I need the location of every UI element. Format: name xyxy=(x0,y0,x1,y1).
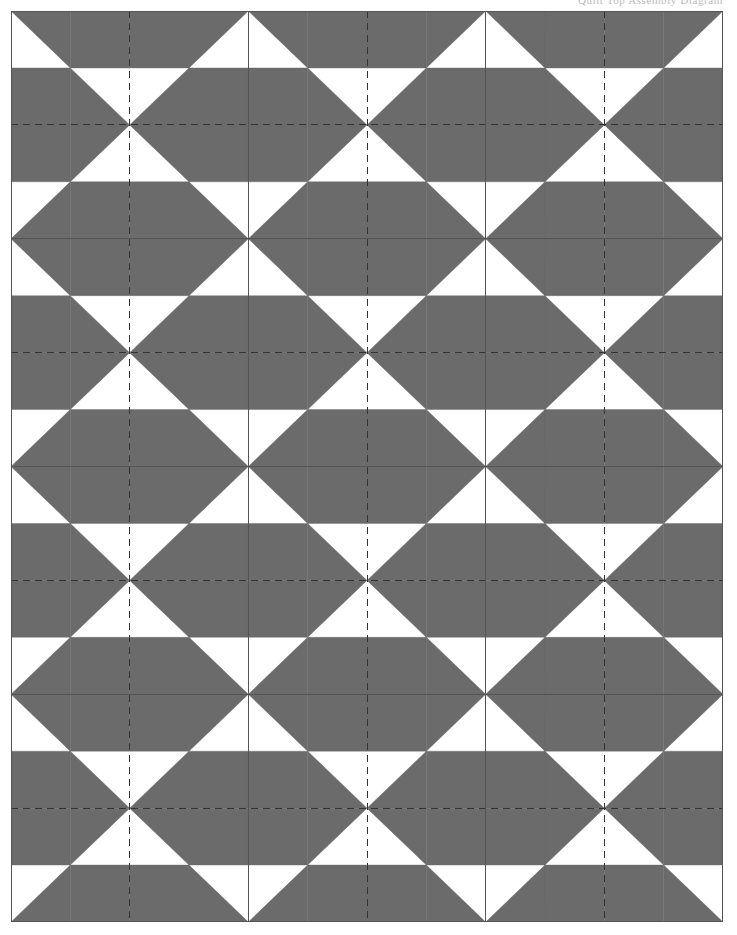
unit-1-3-2-4 xyxy=(664,68,723,125)
unit-4-1-4-3 xyxy=(130,865,189,922)
unit-2-1-4-2 xyxy=(70,410,129,467)
unit-3-3-1-3 xyxy=(604,467,663,524)
unit-2-3-3-4 xyxy=(664,353,723,410)
header-strip: Quilt Top Assembly Diagram xyxy=(0,0,737,9)
unit-4-1-4-2 xyxy=(70,865,129,922)
unit-4-3-3-1 xyxy=(486,808,545,865)
unit-3-1-3-1 xyxy=(11,580,70,637)
unit-1-1-4-3 xyxy=(130,182,189,239)
unit-2-1-4-3 xyxy=(130,410,189,467)
unit-1-2-4-2 xyxy=(308,182,367,239)
quilt-diagram xyxy=(11,11,723,922)
unit-2-2-4-2 xyxy=(308,410,367,467)
unit-1-1-1-2 xyxy=(70,11,129,68)
unit-3-3-4-3 xyxy=(604,637,663,694)
unit-2-1-3-1 xyxy=(11,353,70,410)
unit-2-1-2-4 xyxy=(189,296,248,353)
unit-2-1-1-2 xyxy=(70,239,129,296)
unit-2-3-4-3 xyxy=(604,410,663,467)
unit-2-2-3-4 xyxy=(426,353,485,410)
unit-1-1-1-3 xyxy=(130,11,189,68)
unit-2-3-1-3 xyxy=(604,239,663,296)
unit-4-1-1-2 xyxy=(70,694,129,751)
unit-1-3-1-2 xyxy=(545,11,604,68)
unit-4-1-1-3 xyxy=(130,694,189,751)
unit-4-2-2-1 xyxy=(248,751,307,808)
unit-1-3-3-1 xyxy=(486,125,545,182)
unit-4-3-2-4 xyxy=(664,751,723,808)
unit-2-2-1-3 xyxy=(367,239,426,296)
unit-4-2-4-3 xyxy=(367,865,426,922)
unit-4-2-4-2 xyxy=(308,865,367,922)
unit-4-1-3-4 xyxy=(189,808,248,865)
unit-4-3-4-2 xyxy=(545,865,604,922)
unit-3-2-4-2 xyxy=(308,637,367,694)
unit-1-3-1-3 xyxy=(604,11,663,68)
unit-2-3-4-2 xyxy=(545,410,604,467)
unit-4-1-2-1 xyxy=(11,751,70,808)
unit-3-2-1-3 xyxy=(367,467,426,524)
unit-1-1-3-4 xyxy=(189,125,248,182)
unit-3-3-2-4 xyxy=(664,523,723,580)
unit-1-2-2-4 xyxy=(426,68,485,125)
unit-3-3-4-2 xyxy=(545,637,604,694)
unit-2-3-2-1 xyxy=(486,296,545,353)
unit-3-3-3-4 xyxy=(664,580,723,637)
unit-4-1-2-4 xyxy=(189,751,248,808)
unit-1-2-1-3 xyxy=(367,11,426,68)
unit-4-3-1-3 xyxy=(604,694,663,751)
unit-3-1-4-2 xyxy=(70,637,129,694)
unit-4-3-2-1 xyxy=(486,751,545,808)
unit-3-1-1-3 xyxy=(130,467,189,524)
unit-2-2-4-3 xyxy=(367,410,426,467)
unit-4-3-1-2 xyxy=(545,694,604,751)
unit-1-3-3-4 xyxy=(664,125,723,182)
unit-2-2-2-4 xyxy=(426,296,485,353)
unit-2-3-2-4 xyxy=(664,296,723,353)
unit-3-2-3-4 xyxy=(426,580,485,637)
page-canvas: Quilt Top Assembly Diagram xyxy=(0,0,737,935)
unit-3-2-1-2 xyxy=(308,467,367,524)
unit-1-2-4-3 xyxy=(367,182,426,239)
unit-3-3-3-1 xyxy=(486,580,545,637)
unit-1-3-2-1 xyxy=(486,68,545,125)
unit-4-2-3-4 xyxy=(426,808,485,865)
unit-4-2-3-1 xyxy=(248,808,307,865)
unit-1-3-4-2 xyxy=(545,182,604,239)
unit-1-1-2-1 xyxy=(11,68,70,125)
unit-2-3-3-1 xyxy=(486,353,545,410)
unit-1-3-4-3 xyxy=(604,182,663,239)
unit-3-1-3-4 xyxy=(189,580,248,637)
unit-3-2-4-3 xyxy=(367,637,426,694)
unit-3-1-4-3 xyxy=(130,637,189,694)
unit-3-1-2-4 xyxy=(189,523,248,580)
unit-2-1-1-3 xyxy=(130,239,189,296)
unit-1-1-2-4 xyxy=(189,68,248,125)
unit-4-3-3-4 xyxy=(664,808,723,865)
unit-1-1-3-1 xyxy=(11,125,70,182)
unit-4-1-3-1 xyxy=(11,808,70,865)
unit-1-1-4-2 xyxy=(70,182,129,239)
unit-4-2-2-4 xyxy=(426,751,485,808)
unit-2-3-1-2 xyxy=(545,239,604,296)
unit-3-2-3-1 xyxy=(248,580,307,637)
unit-3-2-2-4 xyxy=(426,523,485,580)
unit-3-1-2-1 xyxy=(11,523,70,580)
unit-3-3-2-1 xyxy=(486,523,545,580)
header-caption-text: Quilt Top Assembly Diagram xyxy=(578,0,723,6)
unit-1-2-3-4 xyxy=(426,125,485,182)
unit-4-3-4-3 xyxy=(604,865,663,922)
unit-4-2-1-3 xyxy=(367,694,426,751)
unit-4-2-1-2 xyxy=(308,694,367,751)
unit-2-1-2-1 xyxy=(11,296,70,353)
unit-1-2-2-1 xyxy=(248,68,307,125)
unit-2-2-2-1 xyxy=(248,296,307,353)
quilt-pattern-svg xyxy=(11,11,723,922)
unit-3-1-1-2 xyxy=(70,467,129,524)
unit-1-2-3-1 xyxy=(248,125,307,182)
unit-3-3-1-2 xyxy=(545,467,604,524)
unit-2-2-1-2 xyxy=(308,239,367,296)
unit-2-2-3-1 xyxy=(248,353,307,410)
unit-1-2-1-2 xyxy=(308,11,367,68)
unit-3-2-2-1 xyxy=(248,523,307,580)
